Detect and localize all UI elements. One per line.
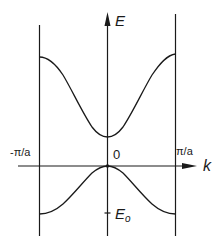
e0-label-subscript: o	[125, 213, 131, 224]
k-axis-label: k	[203, 158, 211, 174]
e0-label-main: E	[115, 205, 125, 222]
energy-axis-arrow-icon	[105, 12, 111, 26]
k-axis-arrow-icon	[182, 163, 197, 169]
left-boundary-label: -π/a	[10, 147, 30, 158]
energy-axis-label: E	[115, 13, 125, 28]
band-structure-diagram: E k 0 -π/a π/a Eo	[0, 0, 222, 247]
e0-label: Eo	[115, 206, 131, 224]
origin-label: 0	[113, 148, 120, 161]
diagram-canvas	[0, 0, 222, 247]
right-boundary-label: π/a	[176, 146, 193, 157]
origin-point	[106, 164, 110, 168]
